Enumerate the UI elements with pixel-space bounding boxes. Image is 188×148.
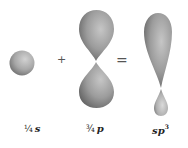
label-p-symbol: p [97,123,104,134]
p-orbital-bottom-lobe [79,62,114,108]
label-sp3-superscript: 3 [165,123,169,130]
label-s-symbol: s [35,123,41,134]
sp3-large-lobe [144,13,172,88]
s-orbital-sphere [10,51,35,76]
sp3-small-lobe [154,89,168,116]
label-p: ¾p [86,123,104,134]
p-orbital-top-lobe [79,10,114,61]
label-s-fraction: ¼ [24,124,33,134]
orbital-hybridization-diagram: + = ¼s ¾p sp3 [0,0,188,148]
sp3-hybrid-orbital [144,13,172,116]
equals-operator: = [116,52,127,68]
p-orbital [79,10,114,108]
label-sp3-symbol: sp [152,125,165,136]
label-s: ¼s [24,123,40,134]
plus-operator: + [57,53,66,66]
label-sp3: sp3 [152,123,169,136]
label-p-fraction: ¾ [86,124,95,134]
